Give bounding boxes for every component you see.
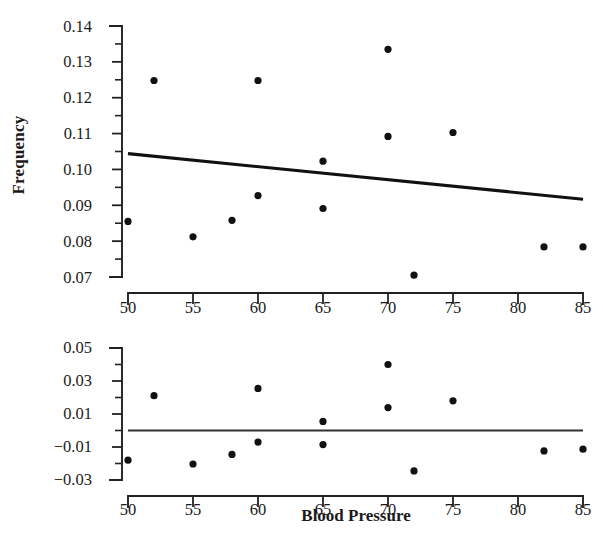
caption-fragment [110, 536, 540, 550]
frequency-plot-svg [0, 0, 603, 320]
data-point-11 [449, 129, 456, 136]
data-point-0 [124, 457, 131, 464]
frequency-panel: Frequency 0.14 0.13 0.12 0.11 0.10 0.09 … [0, 0, 603, 320]
x-axis-title-blood-pressure: Blood Pressure [128, 506, 584, 526]
residual-data-points [124, 361, 586, 475]
data-point-9 [384, 404, 391, 411]
data-point-3 [228, 217, 235, 224]
data-point-0 [124, 218, 131, 225]
data-point-12 [540, 243, 547, 250]
data-point-1 [150, 77, 157, 84]
data-point-4 [254, 385, 261, 392]
data-point-13 [579, 243, 586, 250]
data-point-9 [384, 133, 391, 140]
data-point-11 [449, 397, 456, 404]
data-point-12 [540, 447, 547, 454]
data-point-8 [384, 361, 391, 368]
data-point-2 [189, 460, 196, 467]
data-point-7 [319, 205, 326, 212]
residual-plot-svg [0, 330, 603, 530]
bottom-axes [110, 348, 583, 507]
data-point-1 [150, 392, 157, 399]
data-point-6 [319, 158, 326, 165]
top-axes [110, 26, 583, 304]
data-point-5 [254, 192, 261, 199]
data-point-7 [319, 441, 326, 448]
data-point-10 [410, 467, 417, 474]
data-point-10 [410, 272, 417, 279]
residual-panel: Residual 0.05 0.03 0.01 −0.01 −0.03 50 5… [0, 330, 603, 530]
data-point-8 [384, 46, 391, 53]
data-point-4 [254, 77, 261, 84]
least-squares-fit-line [128, 154, 583, 200]
scatter-figure: Frequency 0.14 0.13 0.12 0.11 0.10 0.09 … [0, 0, 603, 552]
regression-line [128, 154, 583, 200]
data-point-3 [228, 451, 235, 458]
data-point-6 [319, 418, 326, 425]
x-axis-spine [128, 293, 583, 304]
frequency-data-points [124, 46, 586, 279]
data-point-2 [189, 233, 196, 240]
data-point-5 [254, 438, 261, 445]
data-point-13 [579, 446, 586, 453]
